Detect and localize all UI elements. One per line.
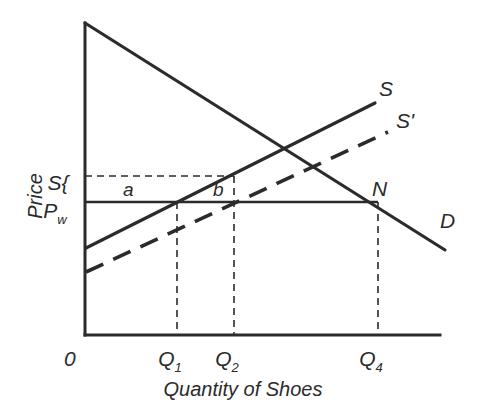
tick-label-q4: Q4	[359, 347, 383, 375]
demand-curve	[85, 23, 445, 250]
supply-demand-figure: S S' D N a b S{ Pw 0 Q1 Q2 Q4 Price Quan…	[0, 0, 482, 419]
world-price-label: Pw	[43, 199, 68, 227]
tick-label-q1: Q1	[158, 347, 182, 375]
chart-canvas: S S' D N a b S{ Pw 0 Q1 Q2 Q4 Price Quan…	[0, 0, 482, 419]
tick-q4-letter: Q	[359, 347, 375, 370]
y-axis-label: Price	[24, 173, 46, 219]
tick-q4-subscript: 4	[376, 360, 383, 375]
area-b-label: b	[213, 179, 224, 200]
tick-q1-letter: Q	[158, 347, 174, 370]
demand-curve-label: D	[440, 209, 455, 232]
tick-q1-subscript: 1	[175, 360, 182, 375]
tick-label-q2: Q2	[215, 347, 239, 375]
supply-shifted-curve-label: S'	[396, 109, 415, 132]
point-n-label: N	[372, 177, 388, 200]
supply-curve	[86, 103, 375, 248]
supply-curve-label: S	[379, 77, 393, 100]
tick-q2-letter: Q	[215, 347, 231, 370]
area-a-label: a	[123, 179, 134, 200]
world-price-subscript: w	[57, 212, 68, 227]
tick-q2-subscript: 2	[231, 360, 240, 375]
origin-label: 0	[64, 347, 76, 370]
supply-price-label: S{	[47, 171, 70, 194]
x-axis-label: Quantity of Shoes	[164, 378, 323, 400]
